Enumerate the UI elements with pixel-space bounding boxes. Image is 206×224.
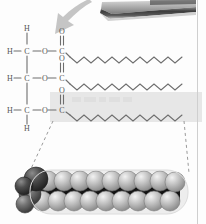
triglyceride-figure: H H C O C O H C O C O H C O C O H xyxy=(0,0,206,224)
model-atom-row-bottom xyxy=(32,191,180,211)
model-atom-row-top xyxy=(38,171,185,192)
page-rule xyxy=(197,0,198,224)
space-filling-model xyxy=(0,0,206,224)
